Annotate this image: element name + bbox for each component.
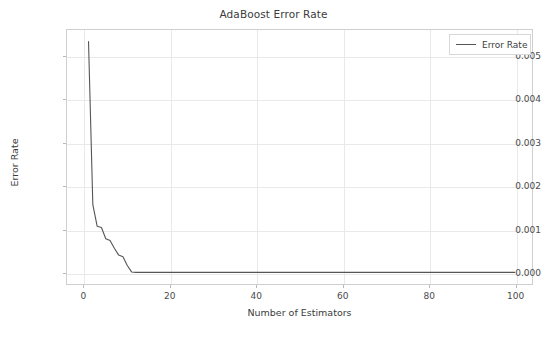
legend-line-swatch — [456, 44, 476, 46]
y-tick-mark — [63, 143, 66, 144]
y-tick-mark — [63, 186, 66, 187]
series-line-error-rate — [67, 30, 532, 284]
y-tick-mark — [63, 99, 66, 100]
y-tick-label: 0.001 — [489, 225, 547, 235]
x-tick-mark — [343, 285, 344, 288]
y-tick-label: 0.002 — [489, 181, 547, 191]
x-tick-label: 20 — [164, 291, 175, 301]
plot-area — [66, 29, 533, 285]
y-tick-mark — [63, 230, 66, 231]
legend-label-error-rate: Error Rate — [482, 40, 527, 50]
y-tick-label: 0.003 — [489, 138, 547, 148]
x-tick-mark — [170, 285, 171, 288]
x-tick-label: 100 — [507, 291, 524, 301]
y-tick-mark — [63, 273, 66, 274]
chart-title: AdaBoost Error Rate — [0, 8, 547, 20]
x-tick-mark — [256, 285, 257, 288]
y-tick-label: 0.004 — [489, 94, 547, 104]
y-axis-label: Error Rate — [9, 103, 20, 223]
chart-figure: AdaBoost Error Rate 0.0000.0010.0020.003… — [0, 0, 547, 343]
x-tick-label: 80 — [423, 291, 434, 301]
y-tick-mark — [63, 56, 66, 57]
y-tick-label: 0.000 — [489, 268, 547, 278]
x-axis-label: Number of Estimators — [66, 307, 533, 318]
x-tick-mark — [429, 285, 430, 288]
x-tick-label: 0 — [80, 291, 86, 301]
x-tick-label: 40 — [251, 291, 262, 301]
legend: Error Rate — [449, 34, 531, 55]
x-tick-mark — [83, 285, 84, 288]
x-tick-label: 60 — [337, 291, 348, 301]
x-tick-mark — [516, 285, 517, 288]
